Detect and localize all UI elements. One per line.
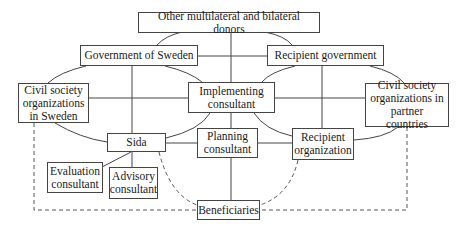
node-cso-partner-countries: Civil society organizations in partner c…	[365, 83, 449, 127]
node-advisory-consultant: Advisory consultant	[109, 167, 158, 199]
node-evaluation-consultant: Evaluation consultant	[47, 162, 103, 193]
node-sida: Sida	[107, 133, 166, 152]
node-recipient-government: Recipient government	[267, 45, 384, 66]
node-recipient-organization: Recipient organization	[292, 128, 354, 160]
node-government-of-sweden: Government of Sweden	[80, 45, 198, 66]
node-beneficiaries: Beneficiaries	[197, 200, 260, 220]
node-planning-consultant: Planning consultant	[197, 128, 258, 158]
node-cso-sweden: Civil society organizations in Sweden	[18, 83, 89, 123]
node-other-donors: Other multilateral and bilateral donors	[138, 12, 320, 33]
node-implementing-consultant: Implementing consultant	[188, 82, 275, 113]
